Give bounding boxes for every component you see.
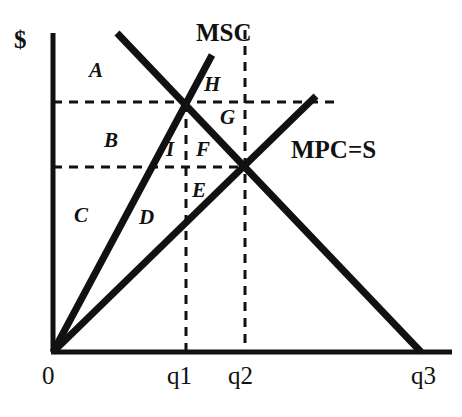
region-label-f: F	[196, 139, 210, 160]
region-label-c: C	[74, 205, 88, 226]
diagram-canvas	[0, 0, 462, 417]
msc-curve-label: MSC	[196, 20, 252, 45]
region-label-i: I	[166, 139, 174, 160]
x-axis-q2-tick-label: q2	[228, 363, 253, 388]
mpc-supply-curve-label: MPC=S	[291, 137, 376, 162]
x-axis-q3-tick-label: q3	[411, 363, 436, 388]
y-axis-dollar-label: $	[14, 27, 27, 52]
region-label-b: B	[104, 130, 118, 151]
x-axis-origin-tick-label: 0	[42, 363, 55, 388]
economics-diagram: $ MSC MPC=S 0 q1 q2 q3 A B C D E F G H I	[0, 0, 462, 417]
region-label-e: E	[192, 180, 206, 201]
region-label-h: H	[204, 74, 220, 95]
region-label-a: A	[89, 60, 103, 81]
x-axis-q1-tick-label: q1	[167, 363, 192, 388]
region-label-g: G	[220, 107, 235, 128]
demand-curve	[117, 33, 421, 352]
region-label-d: D	[139, 207, 154, 228]
